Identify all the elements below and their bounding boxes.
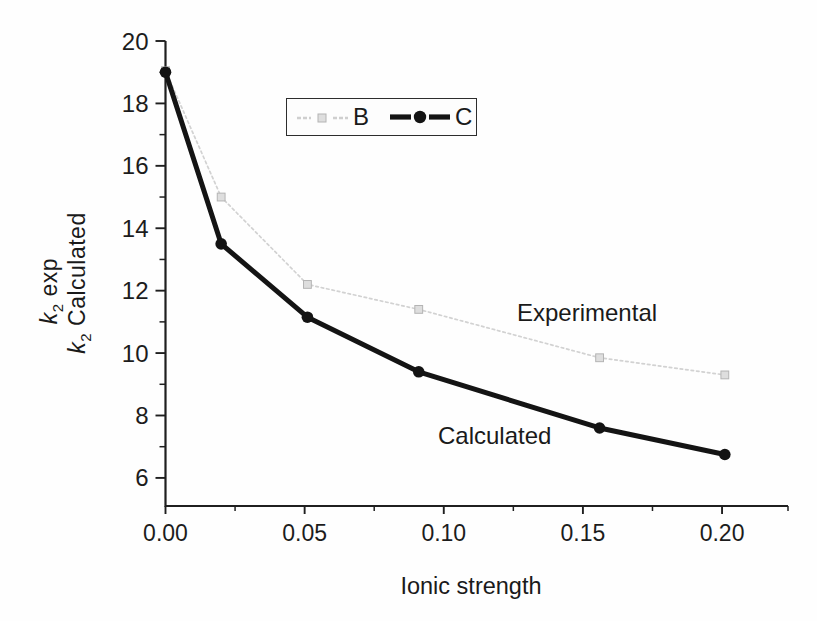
x-axis-tick-label: 0.00 [143,520,188,546]
series-B-marker [217,193,225,201]
y-axis-tick-label: 18 [122,90,149,117]
y-label-text: Calculated [64,212,90,333]
legend: B C [286,98,477,136]
series-C-marker [160,66,172,78]
series-B-marker [304,281,312,289]
y-axis-tick-label: 12 [122,277,149,304]
x-axis-tick-label: 0.20 [700,520,745,546]
y-label-variable: k [36,312,62,324]
y-axis-label-line2: k2 Calculated [64,212,94,353]
series-C-marker [594,422,606,434]
series-C-marker [215,238,227,250]
chart-canvas: 201816141210860.000.050.100.150.20 [0,0,817,621]
y-axis-tick-label: 20 [122,28,149,55]
legend-square-marker-B [318,114,326,122]
legend-sample-calculated [389,108,453,126]
annotation-calculated: Calculated [438,422,551,450]
y-axis-label-line1: k2 exp [36,258,66,324]
y-axis-tick-label: 16 [122,152,149,179]
y-axis-tick-label: 10 [122,340,149,367]
y-axis-tick-label: 6 [135,464,148,491]
y-axis-tick-label: 14 [122,215,149,242]
series-C-marker [719,449,731,461]
y-label-subscript: 2 [77,333,94,342]
figure: 201816141210860.000.050.100.150.20 k2 ex… [0,0,817,621]
legend-sample-experimental [296,111,350,125]
x-axis-tick-label: 0.05 [282,520,327,546]
annotation-experimental: Experimental [517,299,657,327]
y-axis-tick-label: 8 [135,402,148,429]
x-axis-tick-label: 0.15 [561,520,606,546]
series-B-marker [596,354,604,362]
y-label-text: exp [36,258,62,303]
legend-circle-marker-C [414,111,426,123]
series-B-marker [415,305,423,313]
x-axis-title: Ionic strength [400,573,541,600]
y-label-variable: k [64,342,90,354]
series-C-marker [413,366,425,378]
x-axis-tick-label: 0.10 [421,520,466,546]
legend-label-B: B [353,99,369,134]
legend-label-C: C [455,99,472,134]
series-B-marker [721,371,729,379]
series-C-marker [302,311,314,323]
